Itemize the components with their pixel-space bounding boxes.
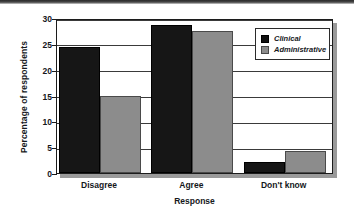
y-tick-label: 15 xyxy=(26,92,52,102)
black-square-swatch xyxy=(261,35,269,43)
x-tick-label: Disagree xyxy=(49,180,149,190)
y-tick-mark xyxy=(52,174,57,175)
legend-label: Administrative xyxy=(274,45,326,54)
gray-square-swatch xyxy=(261,46,269,54)
bar-chart-figure: Percentage of respondents 051015202530 D… xyxy=(0,0,354,220)
bar-clinical-disagree xyxy=(59,47,100,173)
gridline xyxy=(57,20,332,21)
legend-item-administrative: Administrative xyxy=(261,44,325,55)
bar-administrative-don-t-know xyxy=(285,151,326,173)
y-tick-label: 10 xyxy=(26,117,52,127)
y-tick-label: 25 xyxy=(26,40,52,50)
bar-administrative-disagree xyxy=(100,96,141,174)
bar-administrative-agree xyxy=(192,31,233,173)
legend-label: Clinical xyxy=(274,34,301,43)
bar-clinical-don-t-know xyxy=(244,162,285,173)
y-tick-label: 20 xyxy=(26,66,52,76)
legend-item-clinical: Clinical xyxy=(261,33,325,44)
y-tick-label: 30 xyxy=(26,14,52,24)
x-axis-title: Response xyxy=(56,196,333,206)
x-tick-label: Don't know xyxy=(234,180,334,190)
y-tick-label: 0 xyxy=(26,169,52,179)
x-tick-label: Agree xyxy=(141,180,241,190)
bar-clinical-agree xyxy=(151,25,192,173)
chart-legend: ClinicalAdministrative xyxy=(255,28,330,60)
y-tick-label: 5 xyxy=(26,143,52,153)
